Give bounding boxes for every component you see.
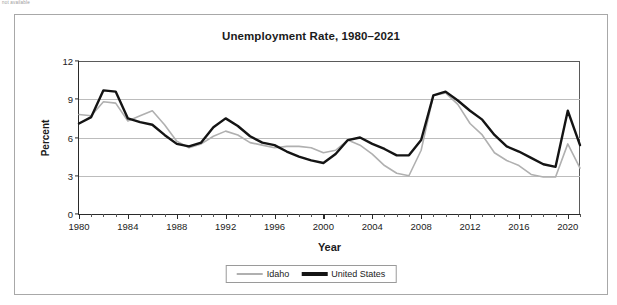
legend-label: Idaho — [267, 269, 290, 279]
x-tick-minor — [409, 214, 410, 217]
plot-area: 036912 198019841988199219962000200420082… — [78, 61, 580, 215]
y-axis-label: Percent — [40, 119, 51, 156]
x-tick-minor — [336, 214, 337, 217]
x-tick-minor — [556, 214, 557, 217]
x-tick-minor — [507, 214, 508, 217]
x-tick-major — [275, 214, 276, 219]
x-tick-minor — [384, 214, 385, 217]
x-tick-label: 2016 — [508, 221, 529, 232]
x-tick-minor — [116, 214, 117, 217]
x-axis-label: Year — [79, 241, 580, 253]
x-tick-major — [79, 214, 80, 219]
x-tick-minor — [91, 214, 92, 217]
legend-entry-idaho[interactable]: Idaho — [237, 269, 290, 279]
x-tick-label: 1988 — [166, 221, 187, 232]
x-tick-minor — [238, 214, 239, 217]
x-tick-minor — [299, 214, 300, 217]
x-tick-minor — [103, 214, 104, 217]
x-tick-minor — [543, 214, 544, 217]
legend-label: United States — [331, 269, 385, 279]
x-tick-minor — [397, 214, 398, 217]
series-lines — [79, 61, 580, 214]
y-tick-label: 0 — [68, 209, 73, 220]
x-tick-label: 2000 — [313, 221, 334, 232]
x-tick-minor — [531, 214, 532, 217]
x-tick-minor — [152, 214, 153, 217]
legend-swatch-icon — [301, 272, 327, 276]
legend-swatch-icon — [237, 273, 263, 275]
x-tick-major — [421, 214, 422, 219]
x-tick-minor — [250, 214, 251, 217]
x-tick-label: 1980 — [68, 221, 89, 232]
x-tick-minor — [580, 214, 581, 217]
x-tick-minor — [482, 214, 483, 217]
x-tick-label: 2012 — [459, 221, 480, 232]
x-tick-label: 1992 — [215, 221, 236, 232]
clipped-header-text: not available — [2, 0, 30, 6]
x-tick-minor — [189, 214, 190, 217]
x-tick-minor — [348, 214, 349, 217]
x-tick-label: 2008 — [411, 221, 432, 232]
x-tick-minor — [140, 214, 141, 217]
x-tick-minor — [494, 214, 495, 217]
x-tick-minor — [360, 214, 361, 217]
y-tick-label: 9 — [68, 94, 73, 105]
x-tick-major — [470, 214, 471, 219]
y-tick-label: 6 — [68, 132, 73, 143]
x-tick-minor — [165, 214, 166, 217]
x-tick-major — [128, 214, 129, 219]
x-tick-minor — [311, 214, 312, 217]
x-tick-major — [519, 214, 520, 219]
legend-entry-united-states[interactable]: United States — [301, 269, 385, 279]
legend: IdahoUnited States — [226, 265, 397, 283]
x-tick-label: 1996 — [264, 221, 285, 232]
x-tick-major — [372, 214, 373, 219]
x-tick-minor — [287, 214, 288, 217]
x-tick-label: 1984 — [117, 221, 138, 232]
y-tick-label: 3 — [68, 170, 73, 181]
x-tick-minor — [213, 214, 214, 217]
chart-title: Unemployment Rate, 1980–2021 — [15, 30, 607, 42]
x-tick-minor — [262, 214, 263, 217]
x-tick-major — [323, 214, 324, 219]
x-tick-minor — [201, 214, 202, 217]
figure-frame: Unemployment Rate, 1980–2021 036912 1980… — [14, 14, 608, 295]
x-tick-minor — [433, 214, 434, 217]
x-tick-label: 2004 — [362, 221, 383, 232]
series-line-idaho — [79, 93, 580, 177]
x-tick-minor — [458, 214, 459, 217]
x-tick-minor — [446, 214, 447, 217]
series-line-united-states — [79, 90, 580, 166]
x-tick-major — [226, 214, 227, 219]
x-tick-label: 2020 — [557, 221, 578, 232]
y-tick-label: 12 — [62, 56, 73, 67]
x-tick-major — [177, 214, 178, 219]
x-tick-major — [568, 214, 569, 219]
